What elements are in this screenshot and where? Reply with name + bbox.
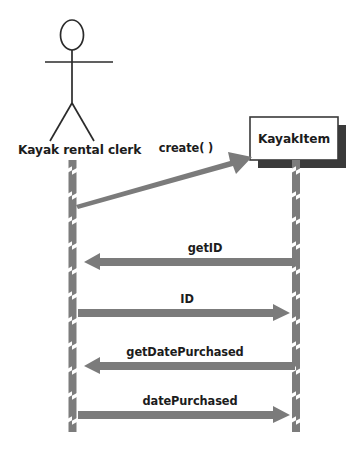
- message-arrow-getdatepurchased[interactable]: [84, 357, 295, 374]
- stick-figure-left-leg: [50, 103, 72, 141]
- sequence-diagram-svg: Kayak rental clerk KayakItem create( ) g…: [0, 0, 358, 452]
- message-label-datepurchased: datePurchased: [143, 394, 238, 408]
- message-arrow-getid-shape: [84, 253, 295, 270]
- message-arrow-getid[interactable]: [84, 253, 295, 270]
- message-label-getid: getID: [188, 241, 223, 255]
- message-arrow-create-shape: [76, 152, 252, 209]
- lifeline-kayakitem: [292, 160, 300, 432]
- message-arrow-id-shape: [78, 304, 290, 321]
- stick-figure-right-leg: [72, 103, 94, 141]
- message-arrow-datepurchased[interactable]: [78, 406, 290, 423]
- sequence-diagram-canvas: Kayak rental clerk KayakItem create( ) g…: [0, 0, 358, 452]
- message-arrow-datepurchased-shape: [78, 406, 290, 423]
- message-label-id: ID: [180, 292, 194, 306]
- message-label-create: create( ): [159, 141, 213, 155]
- message-label-getdatepurchased: getDatePurchased: [126, 345, 243, 359]
- message-arrow-getdatepurchased-shape: [84, 357, 295, 374]
- stick-figure-head: [61, 20, 84, 50]
- message-arrow-id[interactable]: [78, 304, 290, 321]
- object-box-label: KayakItem: [258, 132, 330, 146]
- lifeline-actor: [69, 160, 77, 432]
- message-arrow-create[interactable]: [76, 152, 252, 209]
- stick-figure-icon: [45, 20, 113, 141]
- actor-label: Kayak rental clerk: [18, 143, 142, 157]
